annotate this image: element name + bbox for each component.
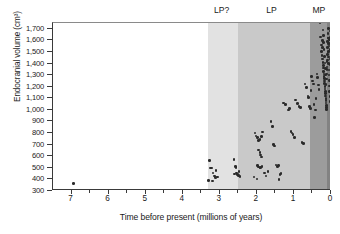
data-point: [271, 125, 274, 128]
y-tick-mark: [47, 144, 52, 145]
data-point: [233, 173, 236, 176]
data-point: [270, 120, 273, 123]
data-point: [313, 116, 316, 119]
epoch-label-lp: LP: [251, 5, 291, 15]
data-point: [324, 67, 327, 70]
x-tick-mark: [330, 190, 331, 194]
epoch-label-lp: LP?: [202, 5, 242, 15]
x-tick-mark: [256, 190, 257, 194]
y-tick-mark: [47, 109, 52, 110]
y-tick-mark: [47, 97, 52, 98]
data-point: [329, 100, 330, 103]
x-minor-tick-mark: [163, 190, 164, 193]
data-point: [321, 39, 324, 42]
data-point: [167, 189, 170, 190]
x-axis-title: Time before present (millions of years): [52, 212, 330, 222]
y-tick-label: 1,600: [0, 35, 44, 44]
y-tick-label: 800: [0, 128, 44, 137]
epoch-label-mp: MP: [299, 5, 339, 15]
data-point: [299, 106, 302, 109]
data-point: [72, 182, 75, 185]
endocranial-volume-scatter-chart: Endocranial volume (cm³) Time before pre…: [0, 0, 340, 234]
x-minor-tick-mark: [89, 190, 90, 193]
data-point: [267, 170, 270, 173]
data-point: [211, 180, 214, 183]
data-point: [314, 109, 317, 112]
data-point: [207, 179, 210, 182]
x-tick-mark: [219, 190, 220, 194]
data-point: [329, 95, 330, 98]
data-point: [312, 83, 315, 86]
data-point: [311, 80, 314, 83]
y-tick-label: 700: [0, 139, 44, 148]
data-point: [325, 108, 328, 111]
x-tick-label: 5: [135, 194, 155, 203]
y-tick-mark: [47, 190, 52, 191]
data-point: [321, 46, 324, 49]
data-point: [302, 142, 305, 145]
x-tick-mark: [182, 190, 183, 194]
y-tick-label: 1,500: [0, 46, 44, 55]
data-point: [305, 86, 308, 89]
data-point: [323, 55, 326, 58]
y-tick-mark: [47, 28, 52, 29]
epoch-band-lp: [208, 23, 238, 189]
data-point: [329, 58, 330, 61]
data-point: [261, 131, 264, 134]
x-tick-label: 3: [209, 194, 229, 203]
x-tick-label: 0: [320, 194, 340, 203]
x-tick-label: 6: [98, 194, 118, 203]
x-minor-tick-mark: [311, 190, 312, 193]
y-tick-mark: [47, 167, 52, 168]
data-point: [321, 58, 324, 61]
y-tick-label: 500: [0, 162, 44, 171]
data-point: [260, 135, 263, 138]
plot-area: [52, 22, 330, 190]
y-tick-mark: [47, 155, 52, 156]
y-tick-label: 600: [0, 151, 44, 160]
x-tick-mark: [108, 190, 109, 194]
y-tick-mark: [47, 86, 52, 87]
data-point: [293, 136, 296, 139]
data-point: [238, 170, 241, 173]
x-minor-tick-mark: [274, 190, 275, 193]
data-point: [329, 48, 330, 51]
y-tick-label: 1,300: [0, 70, 44, 79]
data-point: [328, 90, 330, 93]
data-point: [208, 159, 211, 162]
y-tick-label: 1,100: [0, 93, 44, 102]
data-point: [309, 107, 312, 110]
x-minor-tick-mark: [200, 190, 201, 193]
y-tick-label: 300: [0, 186, 44, 195]
data-point: [316, 76, 319, 79]
y-tick-label: 1,200: [0, 81, 44, 90]
y-tick-mark: [47, 39, 52, 40]
y-tick-label: 900: [0, 116, 44, 125]
data-point: [329, 63, 330, 66]
x-tick-label: 4: [172, 194, 192, 203]
y-tick-mark: [47, 51, 52, 52]
data-point: [233, 158, 236, 161]
x-tick-label: 2: [246, 194, 266, 203]
y-tick-mark: [47, 120, 52, 121]
y-tick-mark: [47, 178, 52, 179]
data-point: [327, 42, 330, 45]
x-tick-mark: [293, 190, 294, 194]
y-tick-label: 1,400: [0, 58, 44, 67]
y-tick-label: 400: [0, 174, 44, 183]
data-point: [322, 34, 325, 37]
y-tick-mark: [47, 132, 52, 133]
data-point: [328, 79, 330, 82]
data-point: [277, 164, 280, 167]
y-tick-label: 1,000: [0, 104, 44, 113]
y-tick-label: 1,700: [0, 23, 44, 32]
x-tick-mark: [145, 190, 146, 194]
y-tick-mark: [47, 74, 52, 75]
x-minor-tick-mark: [237, 190, 238, 193]
data-point: [263, 172, 266, 175]
y-tick-mark: [47, 63, 52, 64]
data-point: [327, 32, 330, 35]
data-point: [273, 145, 276, 148]
x-tick-label: 1: [283, 194, 303, 203]
x-tick-label: 7: [61, 194, 81, 203]
